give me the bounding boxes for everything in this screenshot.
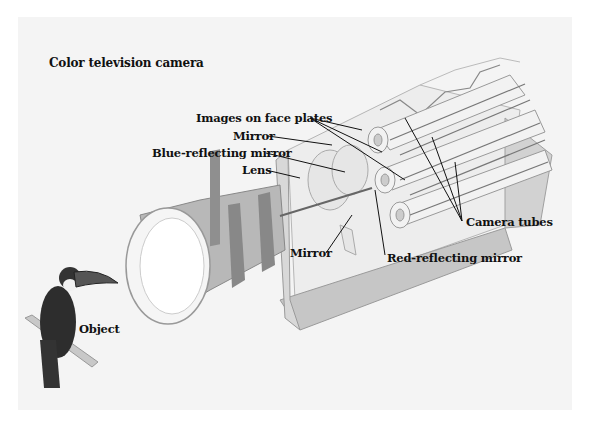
label-mirror-bottom: Mirror bbox=[290, 246, 332, 260]
label-object: Object bbox=[79, 322, 120, 336]
label-images-on-face-plates: Images on face plates bbox=[196, 111, 332, 125]
label-blue-reflecting-mirror: Blue-reflecting mirror bbox=[152, 146, 292, 160]
label-lens: Lens bbox=[242, 163, 271, 177]
diagram-title: Color television camera bbox=[49, 56, 204, 70]
label-red-reflecting-mirror: Red-reflecting mirror bbox=[387, 251, 522, 265]
label-mirror-top: Mirror bbox=[233, 129, 275, 143]
label-camera-tubes: Camera tubes bbox=[466, 215, 553, 229]
